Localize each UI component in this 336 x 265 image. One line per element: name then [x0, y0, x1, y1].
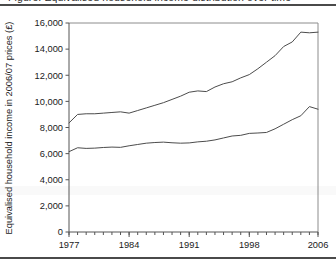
figure-container: Figure: Equivalised household income dis…: [0, 0, 336, 265]
plot-area: 02,0004,0006,0008,00010,00012,00014,0001…: [0, 0, 336, 265]
y-tick-label: 6,000: [40, 149, 63, 159]
y-tick-label: 14,000: [35, 44, 63, 54]
y-tick-label: 4,000: [40, 175, 63, 185]
y-tick-label: 16,000: [35, 18, 63, 28]
line-chart: 02,0004,0006,0008,00010,00012,00014,0001…: [0, 0, 336, 265]
y-tick-label: 12,000: [35, 71, 63, 81]
y-tick-label: 10,000: [35, 97, 63, 107]
x-tick-label: 1991: [179, 240, 200, 250]
y-tick-label: 8,000: [40, 123, 63, 133]
plot-frame: [69, 23, 318, 232]
x-tick-label: 1977: [59, 240, 80, 250]
x-tick-label: 1984: [119, 240, 140, 250]
x-tick-label: 2006: [308, 240, 329, 250]
series-line-upper: [69, 32, 318, 123]
x-tick-label: 1998: [239, 240, 260, 250]
y-tick-label: 0: [58, 227, 63, 237]
y-tick-label: 2,000: [40, 201, 63, 211]
